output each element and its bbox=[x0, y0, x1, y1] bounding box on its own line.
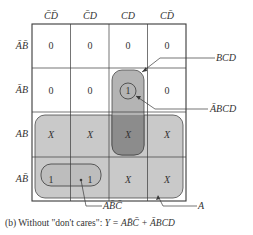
annotation-a: A bbox=[197, 200, 205, 211]
row-header-a-bbar: AB̄ bbox=[15, 173, 28, 184]
loop-overlap-top bbox=[112, 115, 144, 127]
cell-r0c1: 0 bbox=[88, 40, 93, 51]
leader-bcd bbox=[142, 58, 215, 72]
column-headers: C̄D̄ C̄D CD CD̄ bbox=[44, 10, 175, 21]
cell-r1c0: 0 bbox=[49, 85, 54, 96]
cell-r1c3: 0 bbox=[165, 85, 170, 96]
cell-r2c1: X bbox=[86, 129, 94, 140]
cell-r2c3: X bbox=[163, 129, 171, 140]
dot-a-bbar-cbar-icon bbox=[80, 179, 83, 182]
cell-r0c2: 0 bbox=[126, 40, 131, 51]
cell-r1c1: 0 bbox=[88, 85, 93, 96]
cell-r3c0: 1 bbox=[49, 174, 54, 185]
col-header-c-dbar: CD̄ bbox=[160, 10, 175, 21]
col-header-cbar-d: C̄D bbox=[83, 10, 98, 21]
row-header-a-b: AB bbox=[15, 128, 28, 139]
col-header-cbar-dbar: C̄D̄ bbox=[44, 10, 59, 21]
cell-r2c0: X bbox=[47, 129, 55, 140]
cell-r1c2: 1 bbox=[126, 85, 131, 96]
figure-caption: (b) Without "don't cares": Y = AB̄C̄ + Ā… bbox=[5, 218, 175, 228]
cell-r3c3: X bbox=[163, 174, 171, 185]
cell-r3c2: X bbox=[124, 174, 132, 185]
row-header-abar-b: ĀB bbox=[15, 84, 28, 95]
annotation-bcd: BCD bbox=[216, 52, 237, 63]
caption-equation: Y = AB̄C̄ + ĀBCD bbox=[105, 218, 175, 228]
cell-r2c2: X bbox=[124, 129, 132, 140]
karnaugh-map-diagram: C̄D̄ C̄D CD CD̄ ĀB̄ ĀB AB AB̄ 0 0 0 0 0 … bbox=[0, 0, 253, 235]
annotation-a-bbar-cbar: AB̄C̄ bbox=[102, 200, 122, 211]
row-header-abar-bbar: ĀB̄ bbox=[15, 40, 28, 51]
leader-abar-bcd bbox=[136, 96, 208, 109]
col-header-c-d: CD bbox=[121, 10, 136, 21]
cell-r3c1: 1 bbox=[88, 174, 93, 185]
row-headers: ĀB̄ ĀB AB AB̄ bbox=[15, 40, 28, 184]
cell-r0c0: 0 bbox=[49, 40, 54, 51]
caption-prefix: (b) Without "don't cares": bbox=[5, 218, 105, 228]
cell-r0c3: 0 bbox=[165, 40, 170, 51]
annotation-abar-bcd: ĀBCD bbox=[209, 103, 237, 114]
